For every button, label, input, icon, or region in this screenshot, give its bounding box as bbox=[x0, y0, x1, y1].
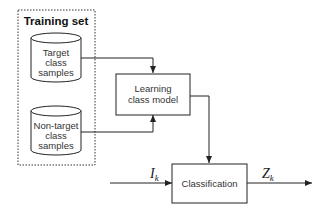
learning-class-model-box: Learning class model bbox=[116, 74, 190, 115]
nontarget-to-learning-arrow bbox=[81, 115, 153, 132]
nontarget-db-line3: samples bbox=[38, 140, 74, 151]
learning-to-classification-arrow bbox=[190, 96, 209, 163]
learning-line2: class model bbox=[128, 94, 178, 105]
output-signal-label: Zk bbox=[262, 166, 275, 183]
training-set-title: Training set bbox=[24, 15, 89, 27]
target-db-line3: samples bbox=[38, 67, 74, 78]
input-signal-label: Ik bbox=[149, 166, 160, 183]
learning-line1: Learning bbox=[135, 83, 172, 94]
classification-label: Classification bbox=[182, 178, 238, 189]
target-to-learning-arrow bbox=[81, 58, 153, 73]
nontarget-class-database-icon: Non-target class samples bbox=[31, 106, 81, 155]
target-class-database-icon: Target class samples bbox=[31, 33, 81, 82]
classification-box: Classification bbox=[172, 164, 247, 203]
diagram-canvas: Training set Target class samples Non-ta… bbox=[0, 0, 326, 215]
